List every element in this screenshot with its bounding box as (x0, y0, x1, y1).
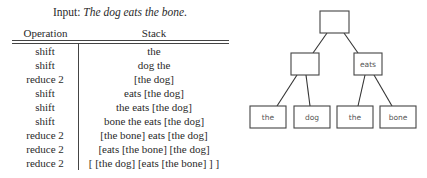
node-label: bone (389, 113, 408, 122)
node-label: the (349, 113, 362, 122)
tree-node-bone: bone (380, 106, 416, 128)
tree-node-dog: dog (294, 106, 330, 128)
node-label: dog (305, 113, 319, 122)
node-label: the (262, 113, 275, 122)
node-label: eats (360, 60, 376, 69)
tree-edge (374, 75, 392, 106)
node-box (291, 53, 319, 75)
tree-edge (277, 75, 297, 106)
tree-node-np1 (291, 53, 319, 75)
tree-node-vp: eats (354, 53, 382, 75)
node-box (320, 11, 349, 33)
tree-edge (358, 75, 365, 106)
tree-node-root (320, 11, 349, 33)
tree-edge (313, 33, 327, 53)
tree-node-the1: the (250, 106, 286, 128)
tree-edge (344, 33, 358, 53)
parse-tree-diagram: eatsthedogthebone (0, 0, 427, 178)
tree-edge (306, 75, 310, 106)
tree-node-the2: the (337, 106, 373, 128)
